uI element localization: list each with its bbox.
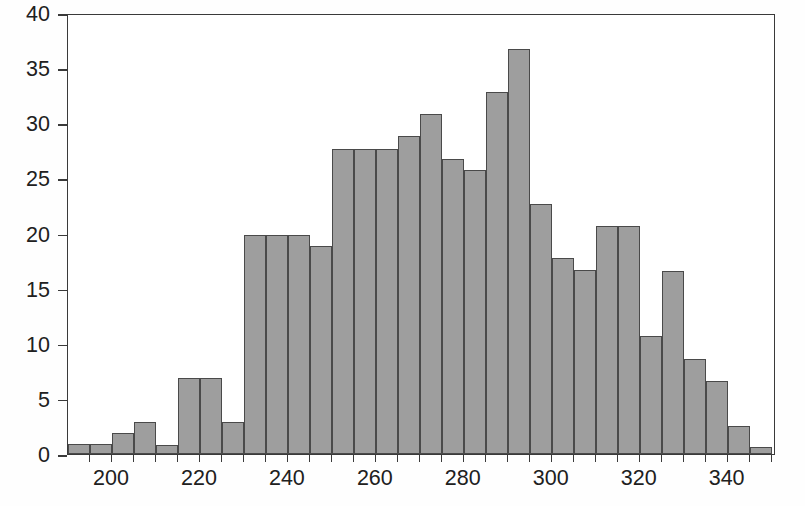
x-axis-tick — [617, 455, 619, 462]
y-axis-tick-label: 25 — [4, 167, 50, 192]
y-axis-tick — [58, 455, 67, 457]
x-axis-tick-label: 300 — [521, 466, 581, 491]
x-axis-tick-label: 240 — [257, 466, 317, 491]
y-axis-tick-label: 5 — [4, 388, 50, 413]
x-axis-tick-label: 260 — [345, 466, 405, 491]
x-axis-tick-label: 320 — [609, 466, 669, 491]
x-axis-tick — [639, 455, 641, 462]
histogram-chart: 0510152025303540200220240260280300320340 — [0, 0, 805, 506]
x-axis-tick-label: 220 — [169, 466, 229, 491]
y-axis-tick — [58, 124, 67, 126]
x-axis-tick — [353, 455, 355, 462]
y-axis-tick-label: 10 — [4, 333, 50, 358]
x-axis-tick — [111, 455, 113, 462]
x-axis-tick — [727, 455, 729, 462]
y-axis-tick-label: 20 — [4, 223, 50, 248]
y-axis-tick — [58, 400, 67, 402]
x-axis-tick — [485, 455, 487, 462]
x-axis-tick — [221, 455, 223, 462]
x-axis-tick — [397, 455, 399, 462]
x-axis-tick — [529, 455, 531, 462]
y-axis-tick-label: 30 — [4, 112, 50, 137]
y-axis-tick-label: 40 — [4, 2, 50, 27]
x-axis-tick-label: 200 — [81, 466, 141, 491]
y-axis-tick — [58, 179, 67, 181]
x-axis-tick — [771, 455, 773, 462]
x-axis-tick — [331, 455, 333, 462]
x-axis-tick — [749, 455, 751, 462]
x-axis-tick — [133, 455, 135, 462]
x-axis-tick — [595, 455, 597, 462]
y-axis-tick — [58, 69, 67, 71]
x-axis-tick — [551, 455, 553, 462]
y-axis-tick-label: 15 — [4, 278, 50, 303]
y-axis-tick — [58, 345, 67, 347]
x-axis-tick — [287, 455, 289, 462]
y-axis-tick-label: 35 — [4, 57, 50, 82]
x-axis-tick — [441, 455, 443, 462]
x-axis-tick — [265, 455, 267, 462]
x-axis-tick — [177, 455, 179, 462]
x-axis-tick — [507, 455, 509, 462]
x-axis-tick — [573, 455, 575, 462]
x-axis-tick — [89, 455, 91, 462]
y-axis-tick — [58, 14, 67, 16]
x-axis-tick — [243, 455, 245, 462]
x-axis-tick — [199, 455, 201, 462]
axis-layer: 0510152025303540200220240260280300320340 — [0, 0, 805, 506]
x-axis-tick-label: 280 — [433, 466, 493, 491]
x-axis-tick — [309, 455, 311, 462]
x-axis-tick — [419, 455, 421, 462]
x-axis-tick — [155, 455, 157, 462]
y-axis-tick — [58, 235, 67, 237]
x-axis-tick — [463, 455, 465, 462]
x-axis-tick — [705, 455, 707, 462]
x-axis-tick — [683, 455, 685, 462]
y-axis-tick-label: 0 — [4, 443, 50, 468]
x-axis-tick — [661, 455, 663, 462]
y-axis-tick — [58, 290, 67, 292]
x-axis-tick-label: 340 — [697, 466, 757, 491]
x-axis-tick — [375, 455, 377, 462]
